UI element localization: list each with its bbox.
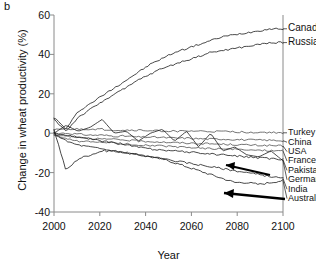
series-line-usa [54,134,283,147]
series-line-turkey [54,128,283,133]
plot-canvas [0,0,316,267]
series-line-china [54,133,283,142]
series-line-canada [54,28,283,129]
arrow-to-australia [224,189,285,199]
annotation-arrows [224,162,285,199]
arrow-to-germany [226,162,270,175]
series-line-germany [54,119,283,160]
chart-panel: b Change in wheat productivity (%) Year … [0,0,316,267]
series-curves [54,28,283,184]
axis-spine [54,15,283,212]
